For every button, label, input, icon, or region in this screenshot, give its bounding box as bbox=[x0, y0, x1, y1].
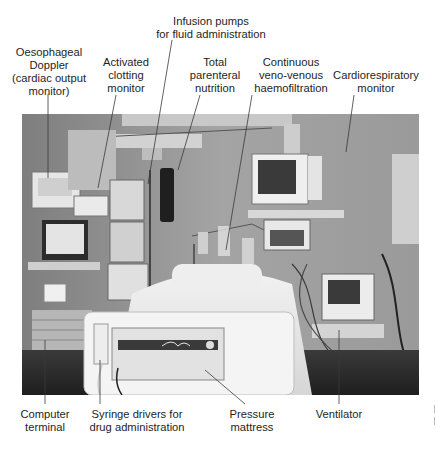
label-line: Infusion pumps bbox=[146, 15, 276, 28]
label-line: mattress bbox=[222, 421, 282, 434]
icu-scene-illustration bbox=[22, 114, 419, 395]
label-cardiorespiratory: Cardiorespiratory monitor bbox=[326, 69, 426, 95]
label-line: Total bbox=[180, 56, 250, 69]
label-activated-clotting: Activated clotting monitor bbox=[96, 56, 156, 95]
label-line: Cardiorespiratory bbox=[326, 69, 426, 82]
label-line: terminal bbox=[12, 421, 78, 434]
label-line: Ventilator bbox=[308, 408, 370, 421]
label-line: for fluid administration bbox=[146, 28, 276, 41]
label-line: nutrition bbox=[180, 82, 250, 95]
label-line: drug administration bbox=[82, 421, 192, 434]
label-line: Doppler bbox=[8, 59, 90, 72]
label-oesophageal-doppler: Oesophageal Doppler (cardiac output moni… bbox=[8, 46, 90, 98]
label-infusion-pumps: Infusion pumps for fluid administration bbox=[146, 15, 276, 41]
label-line: haemofiltration bbox=[248, 82, 334, 95]
label-cvvh: Continuous veno-venous haemofiltration bbox=[248, 56, 334, 95]
label-line: Activated bbox=[96, 56, 156, 69]
edge-mark bbox=[434, 417, 435, 425]
label-line: parenteral bbox=[180, 69, 250, 82]
edge-mark bbox=[434, 405, 435, 413]
label-line: (cardiac output bbox=[8, 72, 90, 85]
label-line: monitor bbox=[326, 82, 426, 95]
label-line: veno-venous bbox=[248, 69, 334, 82]
label-tpn: Total parenteral nutrition bbox=[180, 56, 250, 95]
label-syringe-drivers: Syringe drivers for drug administration bbox=[82, 408, 192, 434]
label-line: Computer bbox=[12, 408, 78, 421]
label-line: Oesophageal bbox=[8, 46, 90, 59]
label-line: Pressure bbox=[222, 408, 282, 421]
label-line: monitor) bbox=[8, 85, 90, 98]
label-line: monitor bbox=[96, 82, 156, 95]
label-line: Continuous bbox=[248, 56, 334, 69]
label-line: Syringe drivers for bbox=[82, 408, 192, 421]
label-ventilator: Ventilator bbox=[308, 408, 370, 421]
label-computer-terminal: Computer terminal bbox=[12, 408, 78, 434]
label-pressure-mattress: Pressure mattress bbox=[222, 408, 282, 434]
icu-photograph bbox=[22, 114, 419, 395]
label-line: clotting bbox=[96, 69, 156, 82]
